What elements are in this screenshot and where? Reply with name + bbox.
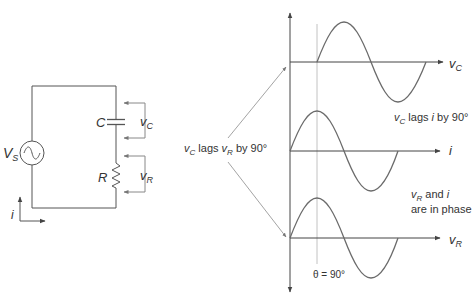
capacitor-label: C — [96, 115, 106, 130]
resistor-label: R — [98, 170, 107, 185]
vc-axis-label: vC — [449, 56, 463, 73]
circuit-wire — [32, 86, 116, 141]
vc-lags-i-note: vC lags i by 90° — [394, 111, 468, 126]
vr-i-in-phase-note-line2: are in phase — [411, 203, 472, 215]
circuit — [20, 86, 145, 221]
vr-axis-label: vR — [449, 232, 463, 249]
vr-label: vR — [140, 168, 154, 185]
phase-graphs — [290, 13, 443, 292]
source-label: VS — [3, 145, 18, 163]
resistor-icon — [112, 163, 120, 188]
theta-label: θ = 90° — [313, 269, 345, 280]
current-label: i — [11, 208, 14, 222]
vr-i-in-phase-note-line1: vR and i — [411, 188, 450, 203]
vc-lags-vr-annotation: vC lags vR by 90° — [184, 142, 267, 157]
i-axis-label: i — [449, 143, 453, 158]
sine-glyph-icon — [24, 147, 40, 159]
series-rc-phase-diagram: VS C R vC vR i vC lags vR by 90° vC i vR… — [0, 0, 476, 305]
vc-label: vC — [140, 114, 154, 131]
